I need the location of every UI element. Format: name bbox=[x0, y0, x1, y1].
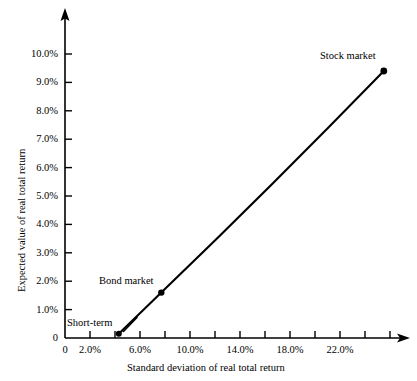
x-axis-title: Standard deviation of real total return bbox=[127, 363, 285, 374]
x-tick-label-18: 18.0% bbox=[263, 345, 317, 356]
annotation-short-term: Short-term bbox=[67, 318, 113, 329]
data-point-stock-market[interactable] bbox=[380, 68, 387, 75]
x-axis-ticks bbox=[90, 331, 390, 338]
x-tick-label-6: 6.0% bbox=[116, 345, 164, 356]
y-tick-label-9: 9.0% bbox=[4, 77, 58, 88]
y-origin-label: 0 bbox=[40, 333, 58, 344]
x-tick-label-14: 14.0% bbox=[213, 345, 267, 356]
y-tick-label-2: 2.0% bbox=[4, 276, 58, 287]
y-tick-label-5: 5.0% bbox=[4, 191, 58, 202]
y-tick-label-6: 6.0% bbox=[4, 163, 58, 174]
y-tick-label-7: 7.0% bbox=[4, 134, 58, 145]
data-point-bond-market[interactable] bbox=[158, 289, 164, 295]
y-axis-ticks bbox=[65, 54, 72, 310]
annotation-bond-market: Bond market bbox=[99, 276, 154, 287]
annotation-stock-market: Stock market bbox=[320, 51, 376, 62]
y-tick-label-10: 10.0% bbox=[4, 49, 58, 60]
y-tick-label-4: 4.0% bbox=[4, 219, 58, 230]
data-point-short-term[interactable] bbox=[116, 331, 122, 337]
x-tick-label-10: 10.0% bbox=[163, 345, 217, 356]
chart-figure: 10.0% 9.0% 8.0% 7.0% 6.0% 5.0% 4.0% 3.0%… bbox=[0, 0, 417, 381]
y-axis-title: Expected value of real total return bbox=[17, 149, 28, 292]
x-tick-label-2: 2.0% bbox=[66, 345, 114, 356]
y-tick-label-3: 3.0% bbox=[4, 248, 58, 259]
data-series-line bbox=[119, 71, 384, 334]
y-tick-label-1: 1.0% bbox=[4, 305, 58, 316]
y-tick-label-8: 8.0% bbox=[4, 106, 58, 117]
x-tick-label-22: 22.0% bbox=[313, 345, 367, 356]
short-term-leader-line bbox=[124, 318, 138, 332]
